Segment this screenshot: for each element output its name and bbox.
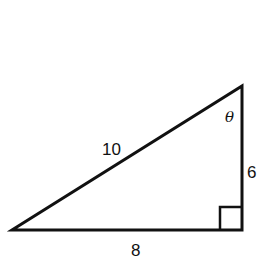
right-triangle-diagram: 10 6 8 θ <box>0 0 279 274</box>
hypotenuse-label: 10 <box>102 140 121 159</box>
triangle-outline <box>12 86 242 230</box>
vertical-leg-label: 6 <box>247 163 256 182</box>
horizontal-leg-label: 8 <box>131 241 140 260</box>
right-angle-marker <box>220 207 242 230</box>
angle-theta-label: θ <box>225 108 234 126</box>
